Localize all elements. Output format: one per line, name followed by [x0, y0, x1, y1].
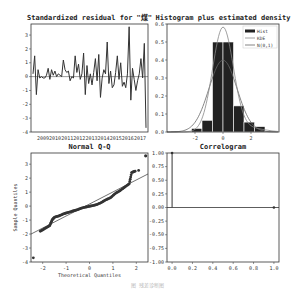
y-tick-label: 0.4 — [155, 57, 164, 63]
x-tick-label: 2017 — [134, 135, 146, 141]
y-tick-label: -2 — [22, 101, 28, 107]
x-tick-label: 0.6 — [229, 265, 238, 271]
x-tick-label: -2 — [192, 135, 198, 141]
histogram-plot: Histogram plus estimated density0.00.10.… — [155, 14, 291, 141]
y-tick-label: 0.00 — [152, 204, 164, 210]
y-tick-label: -1 — [22, 87, 28, 93]
figure-caption: 图 残差诊断图 — [131, 282, 164, 289]
x-tick-label: 2015 — [110, 135, 122, 141]
y-tick-label: 3 — [25, 161, 28, 167]
y-tick-label: -3 — [22, 115, 28, 121]
legend-label: KDE — [257, 36, 265, 41]
histogram-bar — [202, 120, 213, 132]
x-tick-label: 2010 — [49, 135, 61, 141]
y-tick-label: 1 — [25, 59, 28, 65]
y-tick-label: -1 — [22, 217, 28, 223]
x-tick-label: -1 — [63, 265, 69, 271]
x-tick-label: 2011 — [61, 135, 73, 141]
y-tick-label: 0 — [25, 73, 28, 79]
x-tick-label: 2012 — [73, 135, 85, 141]
x-tick-label: 2013 — [85, 135, 97, 141]
chart-title: Normal Q-Q — [68, 143, 110, 151]
qq-point — [134, 170, 137, 173]
y-tick-label: -4 — [22, 129, 28, 135]
histogram-bar — [213, 42, 224, 132]
histogram-bar — [223, 42, 234, 132]
y-tick-label: 0.50 — [152, 177, 164, 183]
y-tick-label: -4 — [22, 259, 28, 265]
y-tick-label: 3 — [25, 32, 28, 38]
y-tick-label: 1 — [25, 189, 28, 195]
x-tick-label: 0.8 — [249, 265, 258, 271]
qq-plot: Normal Q-Q-4-3-2-10123-2-1012Theoretical… — [12, 143, 148, 278]
y-axis-label: Sample Quantiles — [12, 183, 19, 231]
residual-plot: Standardized residual for "煤"-4-3-2-1012… — [22, 13, 152, 141]
x-tick-label: 2 — [249, 135, 252, 141]
x-tick-label: 2009 — [37, 135, 49, 141]
y-tick-label: 0.25 — [152, 191, 164, 197]
qq-point — [137, 169, 140, 172]
x-tick-label: 1.0 — [269, 265, 278, 271]
correlogram-plot: Correlogram-1.00-0.75-0.50-0.250.000.250… — [149, 143, 279, 271]
x-tick-label: 0.2 — [188, 265, 197, 271]
x-tick-label: 0 — [88, 265, 91, 271]
chart-title: Correlogram — [200, 143, 246, 151]
y-tick-label: 0.0 — [155, 129, 164, 135]
y-tick-label: -2 — [22, 231, 28, 237]
chart-title: Standardized residual for "煤" — [27, 13, 152, 22]
x-tick-label: 2014 — [98, 135, 110, 141]
legend-label: N(0,1) — [257, 43, 273, 48]
y-tick-label: -0.25 — [149, 218, 164, 224]
y-tick-label: -0.75 — [149, 245, 164, 251]
x-tick-label: -2 — [40, 265, 46, 271]
x-tick-label: 0.4 — [208, 265, 217, 271]
qq-point — [32, 256, 35, 259]
y-tick-label: 0.2 — [155, 93, 164, 99]
x-tick-label: 2 — [135, 265, 138, 271]
legend-label: Hist — [257, 29, 268, 34]
y-tick-label: -1.00 — [149, 259, 164, 265]
y-tick-label: 0.5 — [155, 39, 164, 45]
y-tick-label: 2 — [25, 175, 28, 181]
chart-title: Histogram plus estimated density — [156, 14, 292, 22]
x-axis-label: Theoretical Quantiles — [58, 272, 121, 278]
x-tick-label: 1 — [111, 265, 114, 271]
qq-point — [144, 154, 147, 157]
y-tick-label: 2 — [25, 46, 28, 52]
y-tick-label: 0.3 — [155, 75, 164, 81]
legend: HistKDEN(0,1) — [243, 26, 277, 48]
x-tick-label: 0 — [221, 135, 224, 141]
y-tick-label: 0.75 — [152, 163, 164, 169]
y-tick-label: 1.00 — [152, 150, 164, 156]
x-tick-label: 2016 — [122, 135, 134, 141]
residual-line — [33, 27, 146, 128]
y-tick-label: 0 — [25, 203, 28, 209]
y-tick-label: 0.6 — [155, 21, 164, 27]
y-tick-label: -0.50 — [149, 231, 164, 237]
acf-marker — [273, 206, 276, 209]
diagnostics-figure: Standardized residual for "煤"-4-3-2-1012… — [0, 0, 296, 293]
x-tick-label: 0.0 — [168, 265, 177, 271]
y-tick-label: 0.1 — [155, 111, 164, 117]
y-tick-label: -3 — [22, 245, 28, 251]
